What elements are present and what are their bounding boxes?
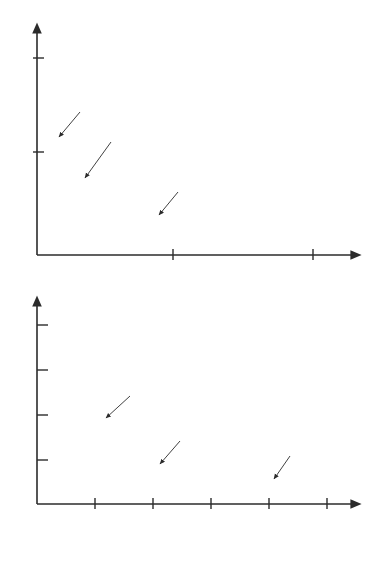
figure-caption [0, 540, 379, 551]
bottom-leader-2 [160, 441, 180, 464]
weibull-figure [0, 0, 379, 566]
top-leader-2 [85, 142, 111, 178]
top-leader-1 [59, 112, 80, 137]
chart-bottom [37, 305, 352, 509]
bottom-leader-1 [106, 396, 130, 418]
bottom-leader-3 [274, 456, 290, 479]
top-leader-3 [159, 192, 178, 215]
chart-top [33, 32, 352, 260]
figure-svg [0, 0, 379, 566]
